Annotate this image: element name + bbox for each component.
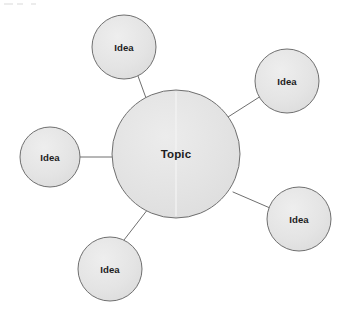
mind-map-diagram: Idea Idea Idea Idea Idea Topic <box>0 0 347 320</box>
node-label-idea-left: Idea <box>40 152 60 163</box>
connector-topic-idea-bottom-right <box>233 192 270 208</box>
node-idea-bottom[interactable]: Idea <box>78 237 142 301</box>
connector-topic-idea-top-right <box>228 96 261 117</box>
diagram-svg: Idea Idea Idea Idea Idea Topic <box>0 0 347 320</box>
node-label-idea-bottom-right: Idea <box>289 214 309 225</box>
node-label-topic: Topic <box>161 148 192 160</box>
node-topic[interactable]: Topic <box>112 90 240 218</box>
node-idea-top-right[interactable]: Idea <box>255 49 319 113</box>
node-idea-bottom-right[interactable]: Idea <box>267 187 331 251</box>
node-idea-left[interactable]: Idea <box>20 127 80 187</box>
connector-topic-idea-top-left <box>138 76 146 98</box>
connector-topic-idea-bottom <box>124 209 148 240</box>
node-label-idea-top-left: Idea <box>114 42 134 53</box>
node-label-idea-bottom: Idea <box>100 264 120 275</box>
node-label-idea-top-right: Idea <box>277 76 297 87</box>
node-idea-top-left[interactable]: Idea <box>92 15 156 79</box>
